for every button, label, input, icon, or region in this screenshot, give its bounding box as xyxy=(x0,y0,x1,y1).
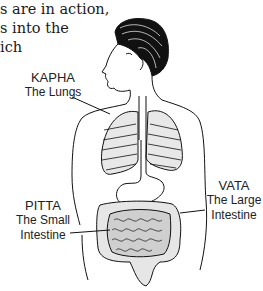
pitta-organ-line1: The Small xyxy=(14,213,72,228)
lungs-right-icon xyxy=(146,111,182,171)
kapha-organ: The Lungs xyxy=(22,85,84,100)
vata-title: VATA xyxy=(205,178,263,193)
vata-label: VATA The Large Intestine xyxy=(205,178,263,223)
pitta-label: PITTA The Small Intestine xyxy=(14,198,72,243)
anatomy-illustration xyxy=(0,0,263,291)
vata-organ-line2: Intestine xyxy=(205,208,263,223)
pitta-organ-line2: Intestine xyxy=(14,228,72,243)
vata-leader-line xyxy=(180,210,205,213)
vata-organ-line1: The Large xyxy=(205,193,263,208)
pitta-title: PITTA xyxy=(14,198,72,213)
kapha-label: KAPHA The Lungs xyxy=(22,70,84,100)
kapha-title: KAPHA xyxy=(22,70,84,85)
